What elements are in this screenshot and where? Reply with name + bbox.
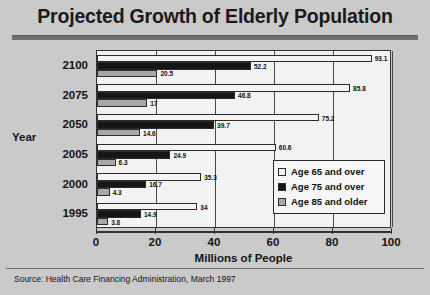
legend-swatch-icon: [278, 183, 286, 191]
bar-row: 14.6: [97, 129, 392, 136]
bar[interactable]: [97, 218, 108, 225]
bar-value-label: 85.8: [350, 85, 366, 92]
chart-legend: Age 65 and overAge 75 and overAge 85 and…: [273, 160, 385, 214]
bar-row: 46.8: [97, 92, 392, 99]
bar-value-label: 20.5: [157, 70, 173, 77]
y-axis-tick-2000: 2000: [62, 178, 88, 190]
bar[interactable]: [97, 173, 201, 180]
x-axis-line: [96, 231, 391, 233]
bar-value-label: 24.9: [170, 151, 186, 158]
legend-swatch-icon: [278, 198, 286, 206]
y-axis-tick-2100: 2100: [62, 59, 88, 71]
x-axis-title: Millions of People: [96, 252, 391, 264]
bar-value-label: 6.3: [116, 159, 128, 166]
gridline: [392, 51, 393, 227]
bar-group: 93.152.220.5: [97, 51, 390, 81]
bar-value-label: 93.1: [372, 55, 388, 62]
x-axis-tick-0: 0: [93, 236, 99, 248]
bar-value-label: 60.6: [276, 144, 292, 151]
bar-row: 52.2: [97, 62, 392, 69]
bar[interactable]: [97, 55, 372, 62]
legend-item-label: Age 65 and over: [291, 166, 364, 177]
y-axis-tick-1995: 1995: [62, 207, 88, 219]
bar-row: 20.5: [97, 70, 392, 77]
x-axis-tickmark: [332, 228, 333, 234]
x-axis-tick-100: 100: [381, 236, 400, 248]
x-axis-tickmark: [155, 228, 156, 234]
bar-value-label: 39.7: [214, 122, 230, 129]
bar-row: 93.1: [97, 55, 392, 62]
chart-page: Projected Growth of Elderly Population Y…: [0, 0, 430, 295]
bar-value-label: 14.9: [141, 211, 157, 218]
bar-value-label: 14.6: [140, 129, 156, 136]
x-axis-tick-20: 20: [149, 236, 162, 248]
title-block: Projected Growth of Elderly Population: [0, 0, 430, 44]
bar-value-label: 3.8: [108, 218, 120, 225]
legend-item[interactable]: Age 85 and older: [278, 194, 380, 209]
x-axis-tick-80: 80: [326, 236, 339, 248]
bar[interactable]: [97, 70, 157, 77]
bar-value-label: 4.3: [110, 188, 122, 195]
bar-row: 39.7: [97, 121, 392, 128]
y-axis-tick-2075: 2075: [62, 89, 88, 101]
bar[interactable]: [97, 129, 140, 136]
bar[interactable]: [97, 84, 350, 91]
bar[interactable]: [97, 99, 147, 106]
bar[interactable]: [97, 62, 251, 69]
legend-item-label: Age 75 and over: [291, 181, 364, 192]
bar-value-label: 35.3: [201, 174, 217, 181]
bar-value-label: 17: [147, 99, 157, 106]
x-axis-tickmark: [391, 228, 392, 234]
bar-row: 3.8: [97, 218, 392, 225]
legend-item[interactable]: Age 75 and over: [278, 179, 380, 194]
legend-item-label: Age 85 and older: [291, 196, 368, 207]
bar-group: 75.239.714.6: [97, 110, 390, 140]
bar-group: 85.846.817: [97, 81, 390, 111]
bar-row: 24.9: [97, 151, 392, 158]
page-title: Projected Growth of Elderly Population: [0, 5, 430, 28]
x-axis-tickmark: [214, 228, 215, 234]
x-axis-tick-40: 40: [208, 236, 221, 248]
legend-item[interactable]: Age 65 and over: [278, 164, 380, 179]
x-axis-tickmark: [273, 228, 274, 234]
x-axis-tickmark: [96, 228, 97, 234]
bar[interactable]: [97, 92, 235, 99]
bar[interactable]: [97, 144, 276, 151]
bar[interactable]: [97, 210, 141, 217]
bar[interactable]: [97, 181, 146, 188]
bar[interactable]: [97, 114, 319, 121]
legend-swatch-icon: [278, 168, 286, 176]
y-axis-tick-labels: 210020752050200520001995: [28, 50, 92, 228]
bar-value-label: 16.7: [146, 181, 162, 188]
bar[interactable]: [97, 203, 197, 210]
y-axis-tick-2005: 2005: [62, 148, 88, 160]
source-caption: Source: Health Care Financing Administra…: [14, 274, 236, 284]
bar-value-label: 52.2: [251, 62, 267, 69]
bar-value-label: 34: [197, 203, 207, 210]
y-axis-tick-2050: 2050: [62, 118, 88, 130]
bar[interactable]: [97, 121, 214, 128]
title-divider: [12, 35, 418, 40]
bar-value-label: 46.8: [235, 92, 251, 99]
bar-row: 85.8: [97, 84, 392, 91]
bar-value-label: 75.2: [319, 114, 335, 121]
bar-row: 60.6: [97, 144, 392, 151]
source-divider: [6, 268, 424, 269]
bar-row: 17: [97, 99, 392, 106]
bar[interactable]: [97, 159, 116, 166]
bar[interactable]: [97, 188, 110, 195]
x-axis-tick-60: 60: [267, 236, 280, 248]
bar[interactable]: [97, 151, 170, 158]
bar-row: 75.2: [97, 114, 392, 121]
